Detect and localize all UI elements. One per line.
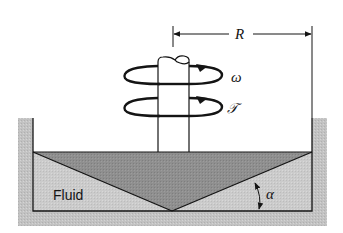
shaft [158,56,189,152]
container-base [18,211,327,226]
torque-arrow [124,96,222,116]
cone-plate-viscometer-diagram: ω 𝒯 R α Fluid [0,0,343,233]
fluid-label: Fluid [53,187,83,203]
angular-velocity-arrow [124,64,222,84]
torque-label: 𝒯 [227,101,242,116]
omega-label: ω [231,69,242,85]
radius-label: R [234,26,244,42]
container-left-wall [18,118,33,226]
container-right-wall [312,118,327,226]
alpha-label: α [266,186,275,202]
shaft-break-top [158,56,189,64]
